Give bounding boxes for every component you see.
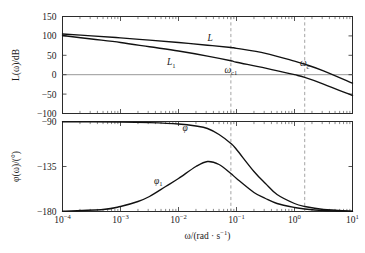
panel-phase: −90−135−180φφ1φ(ω)/(°) [11, 117, 353, 217]
x-ticklabel-1-exponent: −3 [122, 213, 130, 220]
x-axis-title-tail: ) [227, 231, 230, 242]
bode-plot-figure: 150100500−50−100ωc1ωcL(ω)/dB−90−135−180φ… [0, 0, 365, 253]
x-ticklabel-3: 10−1 [228, 213, 245, 225]
panel-magnitude: 150100500−50−100ωc1ωcL(ω)/dB [11, 12, 353, 119]
x-ticklabel-5-exponent: 1 [356, 213, 359, 220]
x-ticklabel-2: 10−2 [170, 213, 187, 225]
x-axis-title-exponent: −1 [220, 229, 227, 236]
x-ticklabel-4: 100 [288, 213, 302, 225]
x-ticklabel-2-exponent: −2 [180, 213, 187, 220]
omega-c-label-subscript: c [307, 63, 310, 70]
omega-c1-label-subscript: c1 [231, 69, 237, 76]
y-ticklabel-magnitude-0: 150 [42, 12, 57, 22]
x-ticklabel-1: 10−3 [112, 213, 129, 225]
bode-plot-svg: 150100500−50−100ωc1ωcL(ω)/dB−90−135−180φ… [0, 0, 365, 253]
curve-label-L1-subscript: 1 [172, 62, 175, 69]
omega-c1-label: ωc1 [224, 65, 237, 76]
phi1-label: φ1 [154, 176, 163, 187]
curve-phi1 [63, 161, 353, 211]
phi-label: φ [182, 123, 187, 133]
y-ticklabel-phase-0: −90 [42, 117, 57, 127]
x-ticklabel-0-exponent: −4 [64, 213, 72, 220]
x-ticklabel-3-exponent: −1 [238, 213, 245, 220]
curve-phi [63, 122, 353, 211]
omega-c-label: ωc [300, 58, 310, 69]
curve-label-L1: L1 [166, 57, 176, 68]
y-ticklabel-magnitude-2: 50 [47, 51, 57, 61]
x-axis-title: ω/(rad · s−1) [185, 229, 231, 242]
x-ticklabel-5: 101 [346, 213, 359, 225]
y-axis-title-magnitude: L(ω)/dB [11, 49, 22, 81]
plot-frame-phase [63, 122, 353, 212]
y-ticklabel-magnitude-3: 0 [52, 70, 57, 80]
phi1-label-subscript: 1 [159, 180, 162, 187]
x-ticklabel-0: 10−4 [54, 213, 71, 225]
y-ticklabel-magnitude-1: 100 [42, 31, 57, 41]
curve-label-L: L [206, 33, 212, 43]
y-ticklabel-phase-1: −135 [37, 162, 57, 172]
y-axis-title-phase: φ(ω)/(°) [11, 151, 22, 182]
y-ticklabel-magnitude-4: −50 [42, 90, 57, 100]
x-ticklabel-4-exponent: 0 [298, 213, 302, 220]
